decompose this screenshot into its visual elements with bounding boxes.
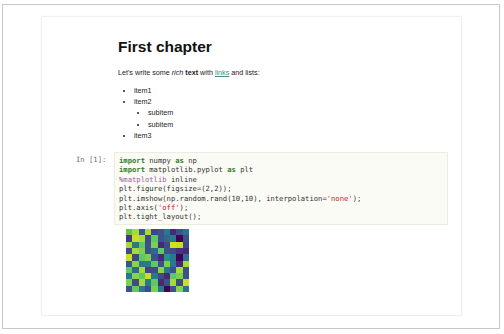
keyword: as <box>227 165 236 174</box>
string-literal: 'none' <box>327 194 353 203</box>
list-item-label: item1 <box>134 86 152 95</box>
code-text: plt <box>236 165 253 174</box>
output-heatmap-image <box>126 229 189 292</box>
code-line: %matplotlib inline <box>119 175 447 184</box>
sublist-item: subitem <box>148 119 448 130</box>
code-text: plt.axis( <box>119 203 158 212</box>
intro-paragraph: Let's write some rich text with links an… <box>118 68 448 78</box>
heatmap-cell <box>183 286 189 292</box>
list-item-label: item2 <box>134 97 152 106</box>
numbered-sublist: subitem subitem <box>134 107 448 129</box>
code-text: ); <box>180 203 189 212</box>
list-item: item2 subitem subitem <box>134 96 448 130</box>
code-text: np <box>184 156 197 165</box>
code-text: plt.imshow(np.random.rand(10,10), interp… <box>119 194 327 203</box>
code-line: plt.imshow(np.random.rand(10,10), interp… <box>119 194 447 203</box>
code-text: ); <box>353 194 362 203</box>
code-text: inline <box>167 175 197 184</box>
input-prompt: In [1]: <box>76 155 106 164</box>
text-segment: and lists: <box>229 68 259 77</box>
sublist-item: subitem <box>148 107 448 118</box>
code-line: plt.figure(figsize=(2,2)); <box>119 184 447 193</box>
keyword: as <box>175 156 184 165</box>
string-literal: 'off' <box>158 203 180 212</box>
links-link[interactable]: links <box>215 68 229 77</box>
code-line: import numpy as np <box>119 156 447 165</box>
list-item-label: item3 <box>134 131 152 140</box>
text-segment: with <box>198 68 215 77</box>
code-cell-editor[interactable]: import numpy as np import matplotlib.pyp… <box>114 152 448 225</box>
code-text: numpy <box>145 156 175 165</box>
keyword: import <box>119 156 145 165</box>
bold-text: text <box>185 68 198 77</box>
bullet-list: item1 item2 subitem subitem item3 <box>118 85 448 141</box>
chapter-heading: First chapter <box>118 38 448 56</box>
magic-command: %matplotlib <box>119 175 167 184</box>
keyword: import <box>119 165 145 174</box>
code-line: plt.axis('off'); <box>119 203 447 212</box>
list-item: item3 <box>134 130 448 141</box>
list-item: item1 <box>134 85 448 96</box>
text-segment: Let's write some <box>118 68 172 77</box>
italic-text: rich <box>172 68 184 77</box>
code-line: plt.tight_layout(); <box>119 212 447 221</box>
code-line: import matplotlib.pyplot as plt <box>119 165 447 174</box>
markdown-cell[interactable]: First chapter Let's write some rich text… <box>118 38 448 141</box>
code-text: matplotlib.pyplot <box>145 165 227 174</box>
